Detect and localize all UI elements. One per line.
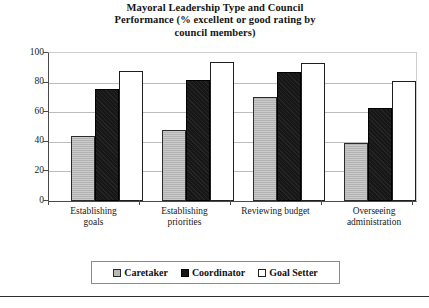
x-tick-mark-2 (230, 200, 231, 205)
bar-goal-setter-establishing-goals[interactable] (119, 71, 143, 201)
x-tick-mark-1 (139, 200, 140, 205)
bar-group-establishing-goals (71, 53, 155, 201)
x-category-label-overseeing-administration: Overseeing administration (321, 206, 427, 229)
bar-chart-figure: Mayoral Leadership Type and Council Perf… (0, 0, 429, 308)
bar-caretaker-reviewing-budget[interactable] (253, 97, 277, 201)
bar-caretaker-establishing-priorities[interactable] (162, 130, 186, 201)
x-category-label-establishing-goals: Establishing goals (48, 206, 139, 229)
x-category-line-1: Establishing (139, 206, 230, 217)
bar-caretaker-establishing-goals[interactable] (71, 136, 95, 201)
legend-swatch-goal-setter-icon (258, 269, 266, 277)
bar-goal-setter-reviewing-budget[interactable] (301, 63, 325, 201)
bar-coordinator-establishing-goals[interactable] (95, 89, 119, 201)
x-category-line-1: Reviewing budget (228, 206, 323, 217)
legend-item-caretaker[interactable]: Caretaker (113, 267, 168, 278)
chart-title-line-2: Performance (% excellent or good rating … (60, 14, 370, 26)
plot-area (48, 52, 417, 202)
y-tick-label-80: 80 (4, 77, 44, 87)
page-divider-rule (0, 296, 429, 297)
y-tick-label-100: 100 (4, 48, 44, 58)
bar-goal-setter-overseeing-administration[interactable] (392, 81, 416, 201)
bar-coordinator-reviewing-budget[interactable] (277, 72, 301, 201)
bar-coordinator-overseeing-administration[interactable] (368, 108, 392, 201)
legend-label-caretaker: Caretaker (124, 267, 168, 278)
chart-legend: Caretaker Coordinator Goal Setter (91, 261, 340, 284)
legend-label-goal-setter: Goal Setter (269, 267, 318, 278)
x-tick-mark-0 (48, 200, 49, 205)
x-category-label-establishing-priorities: Establishing priorities (139, 206, 230, 229)
x-category-line-2: priorities (139, 217, 230, 228)
chart-title-line-3: council members) (60, 27, 370, 39)
legend-swatch-coordinator-icon (181, 269, 189, 277)
y-tick-label-60: 60 (4, 107, 44, 117)
legend-item-goal-setter[interactable]: Goal Setter (258, 267, 318, 278)
x-tick-mark-4 (412, 200, 413, 205)
legend-item-coordinator[interactable]: Coordinator (181, 267, 245, 278)
bar-group-reviewing-budget (253, 53, 337, 201)
bar-group-overseeing-administration (344, 53, 428, 201)
x-category-line-1: Overseeing (321, 206, 427, 217)
x-category-line-1: Establishing (48, 206, 139, 217)
chart-title-line-1: Mayoral Leadership Type and Council (60, 2, 370, 14)
x-category-line-2: administration (321, 217, 427, 228)
bar-goal-setter-establishing-priorities[interactable] (210, 62, 234, 201)
chart-title: Mayoral Leadership Type and Council Perf… (60, 2, 370, 39)
bar-coordinator-establishing-priorities[interactable] (186, 80, 210, 201)
y-tick-label-0: 0 (4, 196, 44, 206)
bar-group-establishing-priorities (162, 53, 246, 201)
y-axis: 100 80 60 40 20 0 (0, 52, 44, 200)
y-tick-label-20: 20 (4, 166, 44, 176)
x-category-label-reviewing-budget: Reviewing budget (228, 206, 323, 217)
y-tick-label-40: 40 (4, 136, 44, 146)
legend-swatch-caretaker-icon (113, 269, 121, 277)
legend-label-coordinator: Coordinator (192, 267, 245, 278)
x-category-line-2: goals (48, 217, 139, 228)
x-tick-mark-3 (321, 200, 322, 205)
bar-caretaker-overseeing-administration[interactable] (344, 143, 368, 201)
